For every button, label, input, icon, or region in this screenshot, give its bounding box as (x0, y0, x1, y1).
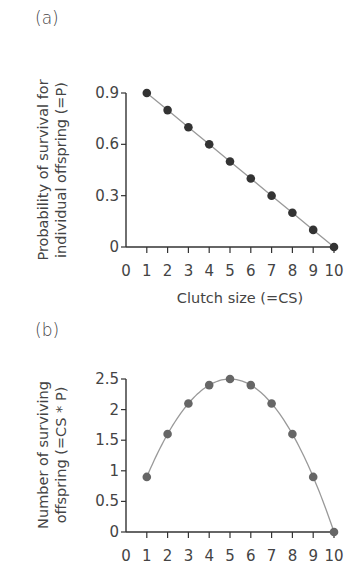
data-point (184, 123, 193, 132)
data-point (205, 381, 214, 390)
chart-panel-a: 00.30.60.9012345678910Clutch size (=CS)P… (35, 79, 344, 306)
x-tick-label: 10 (324, 547, 343, 565)
x-tick-label: 1 (142, 547, 152, 565)
data-point (309, 226, 318, 235)
x-tick-label: 8 (288, 262, 298, 280)
x-tick-label: 4 (204, 262, 214, 280)
y-tick-label: 1 (109, 462, 119, 480)
data-point (205, 140, 214, 149)
x-tick-label: 2 (163, 547, 173, 565)
y-tick-label: 0.9 (95, 84, 119, 102)
data-point (143, 473, 152, 482)
y-axis-title-line2: offspring (=CS * P) (53, 387, 69, 524)
data-point (163, 106, 172, 115)
data-point (288, 430, 297, 439)
data-point (247, 174, 256, 183)
x-axis-title: Clutch size (=CS) (177, 290, 303, 306)
y-tick-label: 2 (109, 401, 119, 419)
x-tick-label: 3 (184, 547, 194, 565)
x-tick-label: 6 (246, 547, 256, 565)
x-tick-label: 5 (225, 262, 235, 280)
x-tick-label: 0 (121, 547, 131, 565)
data-point (226, 375, 235, 384)
x-tick-label: 1 (142, 262, 152, 280)
y-axis-title-line2: individual offspring (=P) (53, 82, 69, 258)
y-axis-title-line1: Number of surviving (35, 381, 51, 529)
y-tick-label: 0 (109, 523, 119, 541)
x-tick-label: 7 (267, 262, 277, 280)
y-tick-label: 2.5 (95, 370, 119, 388)
x-tick-label: 4 (204, 547, 214, 565)
x-tick-label: 6 (246, 262, 256, 280)
y-axis-title-line1: Probability of survival for (35, 79, 51, 260)
data-point (226, 157, 235, 166)
data-point (163, 430, 172, 439)
x-tick-label: 9 (308, 262, 318, 280)
y-tick-label: 0.5 (95, 492, 119, 510)
data-point (184, 399, 193, 408)
y-tick-label: 0.3 (95, 187, 119, 205)
data-point (309, 473, 318, 482)
data-point (330, 243, 339, 252)
data-point (143, 89, 152, 98)
chart-panel-b: 00.511.522.5012345678910Number of surviv… (35, 370, 344, 565)
y-tick-label: 0.6 (95, 135, 119, 153)
x-tick-label: 10 (324, 262, 343, 280)
y-tick-label: 0 (109, 238, 119, 256)
data-point (330, 528, 339, 537)
figure-canvas: 00.30.60.9012345678910Clutch size (=CS)P… (0, 0, 358, 565)
data-point (288, 208, 297, 217)
x-tick-label: 5 (225, 547, 235, 565)
x-tick-label: 7 (267, 547, 277, 565)
series-curve (147, 379, 334, 532)
x-tick-label: 0 (121, 262, 131, 280)
x-tick-label: 3 (184, 262, 194, 280)
x-tick-label: 9 (308, 547, 318, 565)
series-line (147, 93, 334, 247)
x-tick-label: 2 (163, 262, 173, 280)
x-tick-label: 8 (288, 547, 298, 565)
data-point (247, 381, 256, 390)
y-tick-label: 1.5 (95, 431, 119, 449)
data-point (267, 191, 276, 200)
data-point (267, 399, 276, 408)
